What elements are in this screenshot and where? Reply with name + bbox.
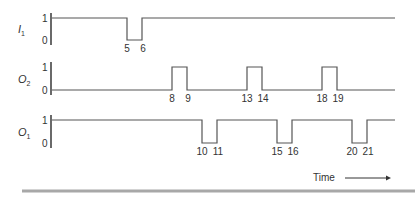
signal-label-i1: I1 <box>18 23 25 37</box>
edge-time-label: 13 <box>241 93 253 104</box>
edge-time-label: 15 <box>271 146 283 157</box>
edge-time-label: 9 <box>185 93 191 104</box>
level-label-low: 0 <box>42 85 48 96</box>
edge-time-label: 5 <box>124 43 130 54</box>
level-label-high: 1 <box>42 115 48 126</box>
waveform-i1 <box>52 18 395 40</box>
level-label-high: 1 <box>42 62 48 73</box>
edge-time-label: 14 <box>257 93 269 104</box>
edge-time-label: 16 <box>287 146 299 157</box>
edge-time-label: 18 <box>316 93 328 104</box>
edge-time-label: 8 <box>169 93 175 104</box>
timing-diagram: I11056O2108913141819O110101115162021Time <box>0 0 417 197</box>
signal-label-o2: O2 <box>18 73 31 87</box>
waveform-o1 <box>52 120 395 143</box>
arrowhead-icon <box>386 176 391 181</box>
signal-label-o1: O1 <box>18 126 31 140</box>
time-axis-label: Time <box>313 172 335 183</box>
edge-time-label: 20 <box>346 146 358 157</box>
level-label-low: 0 <box>42 35 48 46</box>
edge-time-label: 19 <box>332 93 344 104</box>
edge-time-label: 10 <box>196 146 208 157</box>
level-label-high: 1 <box>42 13 48 24</box>
edge-time-label: 11 <box>213 146 224 157</box>
level-label-low: 0 <box>42 138 48 149</box>
waveform-o2 <box>52 67 395 90</box>
edge-time-label: 6 <box>140 43 146 54</box>
edge-time-label: 21 <box>362 146 374 157</box>
